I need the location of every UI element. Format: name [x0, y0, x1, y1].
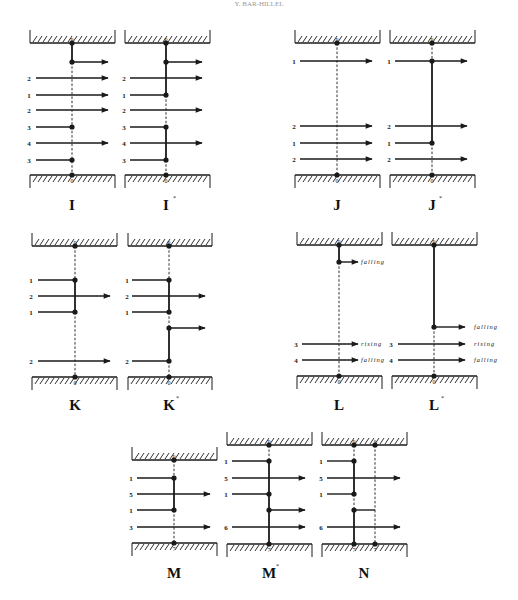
- star-marker: *: [441, 395, 444, 401]
- panel-caption: I: [163, 197, 169, 213]
- row-label: 1: [125, 277, 129, 285]
- signal-row: 2: [29, 358, 110, 366]
- row-label: 4: [294, 357, 298, 365]
- row-label: 2: [292, 123, 296, 131]
- signal-row: 2: [387, 156, 467, 164]
- row-label: 2: [29, 358, 33, 366]
- junction-dot: [166, 243, 171, 248]
- junction-dot: [69, 172, 74, 177]
- row-label: 5: [319, 475, 323, 483]
- panel-caption: K: [163, 397, 175, 413]
- vertical-line: p0: [336, 36, 339, 184]
- row-label: 3: [129, 524, 133, 532]
- junction-dot: [72, 309, 77, 314]
- panel-caption: K: [69, 397, 81, 413]
- junction-dot: [69, 157, 74, 162]
- panel-caption: J: [333, 197, 341, 213]
- signal-row: 3: [129, 524, 210, 532]
- row-label: 1: [319, 458, 323, 466]
- row-tag-rising: rising: [361, 340, 382, 347]
- panel-j-star: p01212J*: [387, 30, 475, 213]
- junction-dot: [431, 373, 436, 378]
- signal-row: falling: [339, 258, 385, 265]
- signal-row: 1: [319, 458, 354, 466]
- signal-row: 1: [224, 491, 269, 499]
- signal-row: 4: [122, 140, 202, 148]
- bottom-line-label: 0: [165, 178, 168, 184]
- signal-row: 1: [387, 58, 467, 66]
- junction-dot: [72, 374, 77, 379]
- row-tag-rising: rising: [474, 340, 495, 347]
- bottom-line-label: 0: [338, 379, 341, 385]
- row-label: 1: [224, 491, 228, 499]
- panel-i: p0212343I: [27, 30, 115, 213]
- row-label: 5: [224, 475, 228, 483]
- signal-row: 1: [27, 92, 108, 100]
- vertical-line: p7: [173, 453, 176, 552]
- row-label: 2: [122, 107, 126, 115]
- row-label: 1: [29, 309, 33, 317]
- row-label: 3: [27, 124, 31, 132]
- row-label: 1: [129, 507, 133, 515]
- signal-row: 1: [387, 140, 432, 148]
- row-label: 2: [387, 123, 391, 131]
- row-tag-falling: falling: [361, 356, 385, 363]
- junction-dot: [429, 172, 434, 177]
- bottom-line-label: 0: [431, 178, 434, 184]
- row-label: 1: [129, 475, 133, 483]
- junction-dot: [372, 442, 377, 447]
- row-label: 1: [125, 309, 129, 317]
- signal-row: 2: [292, 123, 372, 131]
- panel-l-star: p0falling3rising4fallingL*: [389, 232, 498, 413]
- junction-dot: [166, 277, 171, 282]
- signal-row: 2: [125, 293, 205, 301]
- row-label: 6: [224, 524, 228, 532]
- row-label: 3: [294, 341, 298, 349]
- junction-dot: [69, 59, 74, 64]
- signal-row: 1: [292, 58, 372, 66]
- diagram-panels: p0212343Ip0212343I*p01212Jp01212J*p01212…: [27, 30, 498, 581]
- signal-row: 1: [224, 458, 269, 466]
- signal-row: 2: [122, 107, 202, 115]
- panel-m-star: p71516M*: [224, 432, 312, 581]
- signal-row: 3: [27, 157, 72, 165]
- panel-caption: L: [334, 397, 344, 413]
- vertical-line: p0: [433, 238, 436, 385]
- junction-dot: [69, 40, 74, 45]
- signal-row: 3rising: [389, 340, 495, 348]
- bottom-line-label: 7: [173, 546, 176, 552]
- junction-dot: [351, 442, 356, 447]
- bottom-line-label: 0: [71, 178, 74, 184]
- star-marker: *: [173, 195, 176, 201]
- row-label: 4: [27, 140, 31, 148]
- signal-row: 5: [319, 475, 400, 483]
- bottom-wall: [322, 544, 407, 557]
- junction-dot: [336, 242, 341, 247]
- junction-dot: [431, 324, 436, 329]
- junction-dot: [69, 124, 74, 129]
- junction-dot: [336, 259, 341, 264]
- row-label: 3: [122, 124, 126, 132]
- junction-dot: [171, 475, 176, 480]
- row-label: 2: [387, 156, 391, 164]
- junction-dot: [171, 457, 176, 462]
- panel-i-star: p0212343I*: [122, 30, 210, 213]
- signal-row: 4falling: [294, 356, 385, 364]
- signal-row: 1: [319, 491, 354, 499]
- panel-l: p0falling3rising4fallingL: [294, 232, 385, 413]
- junction-dot: [429, 40, 434, 45]
- row-label: 1: [292, 140, 296, 148]
- junction-dot: [266, 507, 271, 512]
- row-label: 2: [292, 156, 296, 164]
- bottom-line-label: 0: [336, 178, 339, 184]
- signal-row: 6: [319, 524, 400, 532]
- signal-row: 1: [29, 309, 75, 317]
- junction-dot: [334, 40, 339, 45]
- bottom-line-label: 7: [374, 547, 377, 553]
- star-marker: *: [176, 395, 179, 401]
- panel-k-star: p01212K*: [125, 233, 212, 413]
- junction-dot: [163, 124, 168, 129]
- row-label: 2: [125, 358, 129, 366]
- junction-dot: [163, 40, 168, 45]
- row-label: 1: [122, 92, 126, 100]
